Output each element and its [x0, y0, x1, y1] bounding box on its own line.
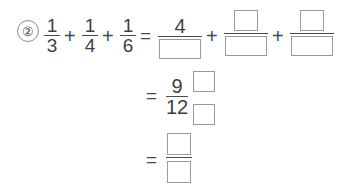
- result-fraction-3-denominator-slot: [291, 34, 333, 56]
- answer-box-final-denominator[interactable]: [167, 161, 191, 183]
- answer-box-line2-top[interactable]: [193, 71, 215, 92]
- fraction-nine-twelfths-numerator: 9: [171, 76, 182, 96]
- result-fraction-2-denominator-slot: [225, 34, 267, 56]
- result-fraction-1: 4: [158, 16, 202, 59]
- final-answer-denominator-slot: [167, 158, 191, 183]
- result-fraction-1-denominator-slot: [159, 37, 201, 59]
- answer-box-denominator-2[interactable]: [225, 36, 267, 56]
- fraction-one-fourth-denominator: 4: [85, 36, 96, 55]
- plus-operator-1: +: [64, 26, 76, 46]
- answer-box-denominator-3[interactable]: [291, 36, 333, 56]
- fraction-one-fourth-numerator: 1: [85, 16, 96, 35]
- fraction-one-fourth: 1 4: [82, 16, 98, 55]
- fraction-one-third-numerator: 1: [47, 16, 58, 35]
- result-fraction-3-numerator-slot: [300, 10, 324, 33]
- final-answer-numerator-slot: [167, 133, 191, 157]
- final-answer-fraction: [166, 133, 192, 183]
- worksheet-problem-canvas: ② 1 3 + 1 4 + 1 6 = 4 +: [0, 0, 342, 192]
- result-fraction-1-numerator: 4: [174, 16, 185, 36]
- equals-sign-line1: =: [140, 26, 151, 45]
- equals-sign-line3: =: [146, 150, 157, 169]
- fraction-one-sixth-numerator: 1: [123, 16, 134, 35]
- fraction-nine-twelfths-denominator: 12: [166, 97, 188, 117]
- plus-operator-2: +: [102, 26, 114, 46]
- equals-sign-line2: =: [146, 86, 157, 105]
- answer-box-denominator-1[interactable]: [159, 39, 201, 59]
- result-fraction-2: [224, 10, 268, 56]
- fraction-one-sixth: 1 6: [120, 16, 136, 55]
- problem-number-badge: ②: [17, 20, 39, 42]
- plus-operator-3: +: [206, 26, 218, 46]
- answer-box-line2-bottom[interactable]: [193, 104, 215, 125]
- fraction-one-third: 1 3: [44, 16, 60, 55]
- answer-box-numerator-3[interactable]: [300, 10, 324, 31]
- plus-operator-4: +: [272, 26, 284, 46]
- answer-box-final-numerator[interactable]: [167, 133, 191, 155]
- fraction-nine-twelfths: 9 12: [166, 76, 188, 117]
- answer-box-numerator-2[interactable]: [234, 10, 258, 31]
- result-fraction-3: [290, 10, 334, 56]
- fraction-one-third-denominator: 3: [47, 36, 58, 55]
- result-fraction-2-numerator-slot: [234, 10, 258, 33]
- fraction-one-sixth-denominator: 6: [123, 36, 134, 55]
